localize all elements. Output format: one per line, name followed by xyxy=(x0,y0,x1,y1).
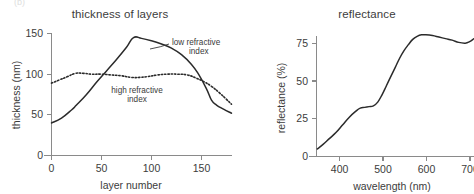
x-tick-label-600: 600 xyxy=(418,163,436,175)
annot-high-refractive-line1: high refractive xyxy=(111,86,163,95)
y-tick-label-150: 150 xyxy=(25,27,43,39)
x-tick-label-100: 100 xyxy=(143,162,161,174)
panel-reflectance: reflectance 75 50 25 0 400 xyxy=(240,0,474,194)
x-axis-title: wavelength (nm) xyxy=(352,180,431,192)
y-tick-label-100: 100 xyxy=(25,68,43,80)
y-tick-label-25: 25 xyxy=(296,112,308,124)
panel-thickness-of-layers: thickness of layers 150 100 50 0 xyxy=(0,0,240,194)
figure-root: (b) thickness of layers 150 100 50 0 xyxy=(0,0,474,194)
y-axis-title: reflectance (%) xyxy=(275,63,287,134)
y-axis-title: thickness (nm) xyxy=(10,61,22,129)
chart-reflectance: 75 50 25 0 400 500 600 700 wavelength (n… xyxy=(240,0,474,194)
y-tick-label-50: 50 xyxy=(31,108,43,120)
x-axis-title: layer number xyxy=(100,179,162,191)
x-tick-label-700: 700 xyxy=(461,163,474,175)
x-tick-label-150: 150 xyxy=(193,162,211,174)
y-tick-label-0: 0 xyxy=(302,150,308,162)
annot-high-refractive-line2: index xyxy=(127,95,147,104)
annot-low-refractive-line2: index xyxy=(189,47,209,56)
x-tick-label-400: 400 xyxy=(331,163,349,175)
chart-thickness-of-layers: 150 100 50 0 0 50 100 150 layer number t… xyxy=(0,0,240,194)
y-tick-label-50: 50 xyxy=(296,75,308,87)
annot-low-refractive-line1: low refractive xyxy=(172,38,221,47)
x-tick-label-0: 0 xyxy=(49,162,55,174)
series-reflectance xyxy=(317,35,474,149)
y-tick-label-75: 75 xyxy=(296,37,308,49)
y-tick-label-0: 0 xyxy=(37,149,43,161)
x-tick-label-500: 500 xyxy=(374,163,392,175)
x-tick-label-50: 50 xyxy=(96,162,108,174)
